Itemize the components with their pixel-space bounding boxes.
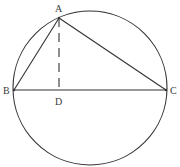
- point-b: [13, 89, 15, 91]
- circumcircle: [13, 11, 167, 165]
- point-a: [58, 17, 60, 19]
- label-b: B: [3, 86, 10, 96]
- label-d: D: [55, 97, 62, 107]
- segment-ac: [59, 18, 166, 90]
- point-c: [165, 89, 167, 91]
- label-c: C: [170, 86, 177, 96]
- geometry-diagram: [0, 0, 180, 167]
- label-a: A: [55, 4, 62, 14]
